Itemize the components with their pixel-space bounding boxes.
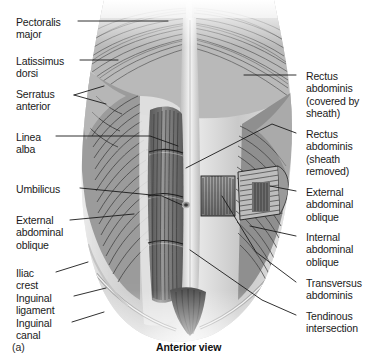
panel-label: (a) xyxy=(12,341,25,353)
label-transversus-abdominis: Transversus abdominis xyxy=(306,277,362,302)
label-umbilicus: Umbilicus xyxy=(16,183,60,195)
leader-iliac-crest xyxy=(56,262,88,272)
label-pectoralis-major: Pectoralis major xyxy=(16,16,61,41)
label-linea-alba: Linea alba xyxy=(16,131,41,156)
view-caption: Anterior view xyxy=(156,341,221,353)
label-external-abdominal-oblique-left: External abdominal oblique xyxy=(16,214,63,251)
leader-inguinal-ligament xyxy=(74,288,106,296)
label-internal-abdominal-oblique: Internal abdominal oblique xyxy=(306,231,353,268)
label-inguinal-ligament: Inguinal ligament xyxy=(16,292,55,317)
leader-inguinal-canal xyxy=(72,312,104,322)
label-rectus-abdominis-removed: Rectus abdominis (sheath removed) xyxy=(306,128,353,177)
label-external-abdominal-oblique-right: External abdominal oblique xyxy=(306,186,353,223)
label-inguinal-canal: Inguinal canal xyxy=(16,317,52,342)
label-serratus-anterior: Serratus anterior xyxy=(16,88,54,113)
label-latissimus-dorsi: Latissimus dorsi xyxy=(16,55,64,80)
label-tendinous-intersection: Tendinous intersection xyxy=(306,310,358,335)
label-iliac-crest: Iliac crest xyxy=(16,267,38,292)
label-rectus-abdominis-covered: Rectus abdominis (covered by sheath) xyxy=(306,70,359,119)
